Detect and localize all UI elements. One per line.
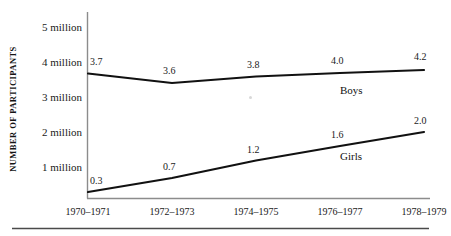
series-line-boys bbox=[88, 70, 424, 83]
series-line-girls bbox=[88, 132, 424, 192]
